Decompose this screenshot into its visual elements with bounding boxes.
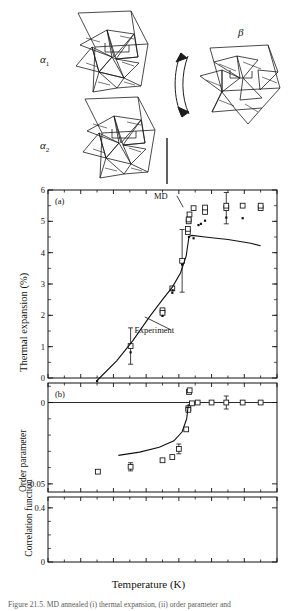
- data-point: [225, 216, 227, 218]
- svg-text:2: 2: [41, 310, 45, 320]
- data-point: [130, 351, 132, 353]
- figure-caption: Figure 21.5. MD annealed (i) thermal exp…: [8, 600, 293, 611]
- panel-b-tag: (b): [55, 389, 65, 399]
- svg-text:0.4: 0.4: [34, 503, 45, 513]
- svg-text:3: 3: [41, 279, 45, 289]
- data-point: [160, 310, 165, 315]
- figure-root: α1 α2 β 0123456(a)MDExperiment0-0.05(b)0…: [0, 0, 297, 611]
- data-point: [128, 464, 133, 469]
- data-point: [197, 224, 199, 226]
- data-point: [187, 212, 192, 217]
- experiment-curve: [97, 235, 261, 380]
- xaxis-label: Temperature (K): [0, 578, 297, 590]
- data-point: [240, 400, 245, 405]
- data-point: [186, 217, 191, 222]
- plot-panels: 0123456(a)MDExperiment0-0.05(b)00.4: [0, 0, 297, 611]
- data-point: [224, 400, 229, 405]
- data-point: [242, 217, 244, 219]
- data-point: [161, 315, 163, 317]
- data-point: [95, 469, 100, 474]
- svg-text:1: 1: [41, 342, 45, 352]
- panel-c-ylabel-text: Correlation function: [25, 479, 35, 556]
- annotation-experiment: Experiment: [134, 325, 174, 335]
- panel-a-ylabel: Thermal expansion (%): [18, 273, 29, 372]
- svg-text:4: 4: [41, 248, 46, 258]
- data-point: [258, 400, 263, 405]
- data-point: [203, 205, 208, 210]
- data-point: [176, 446, 181, 451]
- data-point: [190, 401, 195, 406]
- data-point: [185, 226, 190, 231]
- data-point: [160, 458, 165, 463]
- panel-c-ylabel: Correlation function: [5, 497, 27, 507]
- data-point: [187, 388, 192, 393]
- data-point: [191, 206, 196, 211]
- annotation-md: MD: [154, 191, 168, 201]
- data-point: [172, 289, 174, 291]
- svg-text:0: 0: [41, 373, 45, 383]
- data-point: [240, 203, 245, 208]
- panel-c-frame: [48, 497, 277, 562]
- data-point: [170, 455, 175, 460]
- data-point: [192, 237, 194, 239]
- data-point: [200, 223, 202, 225]
- svg-text:0: 0: [41, 557, 45, 567]
- data-point: [224, 203, 229, 208]
- panel-a-tag: (a): [55, 196, 65, 206]
- data-point: [171, 292, 173, 294]
- svg-text:5: 5: [41, 216, 45, 226]
- svg-text:0: 0: [41, 398, 45, 408]
- panel-b-frame: [48, 383, 277, 492]
- data-point: [184, 427, 189, 432]
- data-point: [258, 203, 263, 208]
- data-point: [204, 220, 206, 222]
- data-point: [209, 400, 214, 405]
- svg-text:6: 6: [41, 185, 45, 195]
- data-point: [195, 400, 200, 405]
